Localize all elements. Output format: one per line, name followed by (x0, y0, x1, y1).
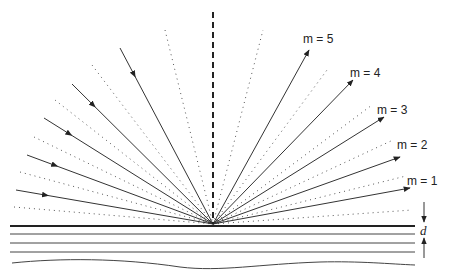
dotted-line (55, 100, 213, 224)
dotted-line (165, 30, 213, 224)
incident-ray (120, 48, 213, 224)
dotted-line (92, 65, 213, 224)
spacing-indicator: d (420, 202, 427, 258)
incident-rays (16, 48, 213, 224)
dotted-line (213, 140, 393, 224)
order-label: m = 4 (350, 66, 381, 80)
order-label: m = 3 (377, 103, 408, 117)
dotted-line (34, 137, 213, 224)
order-label: m = 1 (407, 174, 438, 188)
diffracted-ray (213, 157, 400, 224)
dotted-line (213, 30, 263, 224)
spacing-label: d (420, 223, 427, 238)
diffracted-ray (213, 50, 309, 224)
diffracted-rays (213, 50, 410, 224)
dotted-line (213, 105, 372, 224)
substrate-wavy-line (12, 260, 415, 269)
layered-structure (10, 226, 415, 269)
order-label: m = 2 (397, 138, 428, 152)
order-label: m = 5 (303, 32, 334, 46)
dotted-line (213, 176, 406, 224)
diffraction-diagram: m = 5m = 4m = 3m = 2m = 1 d (0, 0, 450, 280)
dotted-line (20, 172, 213, 224)
dotted-line (213, 70, 327, 224)
right-dotted-lines (213, 30, 412, 224)
